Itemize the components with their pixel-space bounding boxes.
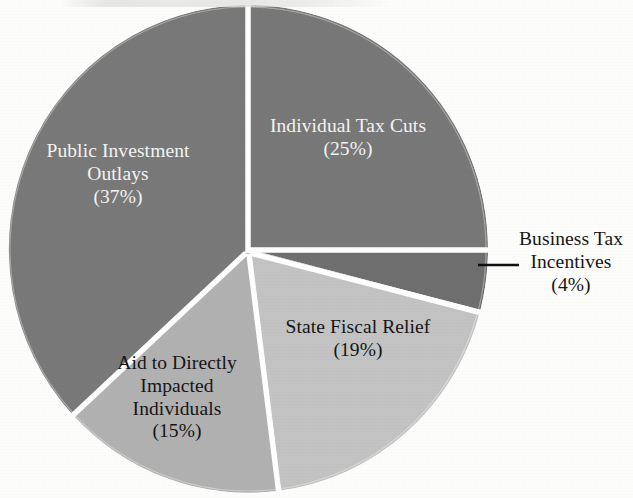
pie-label-aid-name-3: Individuals [92,398,262,421]
pie-label-aid-to-directly-impacted-individuals: Aid to Directly Impacted Individuals (15… [92,352,262,443]
pie-label-individual-tax-cuts-percent: (25%) [243,138,453,161]
pie-label-aid-percent: (15%) [92,420,262,443]
pie-label-state-fiscal-relief-percent: (19%) [268,339,448,362]
pie-label-business-tax-incentives: Business Tax Incentives (4%) [510,228,632,296]
pie-label-individual-tax-cuts: Individual Tax Cuts (25%) [243,115,453,161]
pie-label-state-fiscal-relief: State Fiscal Relief (19%) [268,316,448,362]
pie-label-individual-tax-cuts-name: Individual Tax Cuts [243,115,453,138]
pie-label-public-investment-outlays-name-1: Public Investment [18,140,218,163]
pie-chart: Individual Tax Cuts (25%) Public Investm… [0,0,633,498]
pie-label-business-tax-incentives-name-1: Business Tax [510,228,632,251]
pie-label-public-investment-outlays: Public Investment Outlays (37%) [18,140,218,208]
pie-label-public-investment-outlays-percent: (37%) [18,186,218,209]
pie-label-public-investment-outlays-name-2: Outlays [18,163,218,186]
pie-label-state-fiscal-relief-name: State Fiscal Relief [268,316,448,339]
pie-label-business-tax-incentives-name-2: Incentives [510,251,632,274]
pie-label-aid-name-2: Impacted [92,375,262,398]
pie-label-aid-name-1: Aid to Directly [92,352,262,375]
pie-label-business-tax-incentives-percent: (4%) [510,274,632,297]
